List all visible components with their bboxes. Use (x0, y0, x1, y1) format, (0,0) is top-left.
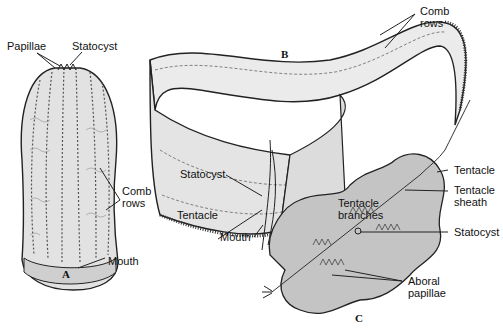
panel-letter-a: A (62, 268, 70, 280)
panel-letter-b: B (281, 48, 288, 60)
label-c-aboral-papillae: Aboral papillae (408, 275, 446, 299)
label-a-mouth: Mouth (108, 255, 139, 267)
label-b-comb-rows: Comb rows (420, 5, 449, 29)
label-c-tentacle-sheath-line1: Tentacle (454, 184, 495, 196)
label-b-comb-rows-line1: Comb (420, 5, 449, 17)
label-b-mouth: Mouth (220, 231, 251, 243)
label-b-statocyst: Statocyst (180, 168, 225, 180)
panel-a-ctenophore (21, 52, 120, 290)
label-b-tentacle: Tentacle (177, 209, 218, 221)
label-a-comb-rows-line2: rows (122, 197, 151, 209)
label-c-tentacle: Tentacle (454, 164, 495, 176)
label-c-statocyst: Statocyst (454, 226, 499, 238)
label-c-tentacle-sheath-line2: sheath (454, 196, 495, 208)
label-a-statocyst: Statocyst (72, 40, 117, 52)
label-c-aboral-papillae-line1: Aboral (408, 275, 446, 287)
label-b-tentacle-branches-line2: branches (338, 209, 383, 221)
label-a-comb-rows-line1: Comb (122, 185, 151, 197)
label-a-comb-rows: Comb rows (122, 185, 151, 209)
label-c-tentacle-sheath: Tentacle sheath (454, 184, 495, 208)
label-b-tentacle-branches: Tentacle branches (338, 197, 383, 221)
label-b-comb-rows-line2: rows (420, 17, 449, 29)
panel-letter-c: C (355, 312, 363, 324)
label-c-aboral-papillae-line2: papillae (408, 287, 446, 299)
label-b-tentacle-branches-line1: Tentacle (338, 197, 383, 209)
label-a-papillae: Papillae (7, 40, 46, 52)
